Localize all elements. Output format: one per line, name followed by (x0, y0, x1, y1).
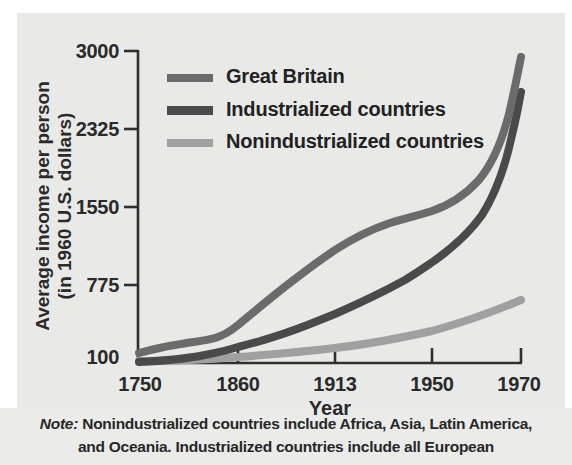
legend-swatch-industrialized-countries (167, 106, 213, 115)
chart-note-line-1-text: Nonindustrialized countries include Afri… (78, 415, 532, 432)
income-line-chart: 3000 2325 1550 775 100 1750 1860 1913 19… (0, 0, 572, 465)
y-tick-label-2325: 2325 (76, 118, 119, 140)
chart-note-prefix: Note: (40, 415, 78, 432)
chart-note-line-1: Note: Nonindustrialized countries includ… (0, 412, 572, 435)
legend-label-industrialized-countries: Industrialized countries (226, 98, 446, 120)
series-line-nonindustrialized-countries (139, 300, 521, 361)
legend-label-nonindustrialized-countries: Nonindustrialized countries (226, 130, 484, 152)
y-tick-label-100: 100 (87, 346, 120, 368)
y-tick-label-775: 775 (87, 274, 120, 296)
x-tick-label-1950: 1950 (410, 373, 453, 395)
y-axis-title-line-2: (in 1960 U.S. dollars) (54, 113, 75, 300)
figure-container: 3000 2325 1550 775 100 1750 1860 1913 19… (0, 0, 572, 465)
y-axis-title-line-1: Average income per person (32, 81, 53, 331)
chart-legend: Great Britain Industrialized countries N… (167, 65, 484, 152)
x-tick-label-1913: 1913 (313, 373, 356, 395)
x-tick-label-1970: 1970 (497, 373, 540, 395)
y-tick-label-3000: 3000 (76, 40, 119, 62)
chart-note-line-2: and Oceania. Industrialized countries in… (0, 435, 572, 458)
x-tick-label-1750: 1750 (118, 373, 161, 395)
y-tick-label-1550: 1550 (76, 196, 119, 218)
legend-swatch-great-britain (167, 74, 213, 82)
legend-label-great-britain: Great Britain (226, 65, 345, 87)
y-axis-ticks (124, 51, 138, 285)
chart-note: Note: Nonindustrialized countries includ… (0, 412, 572, 458)
legend-swatch-nonindustrialized-countries (167, 139, 213, 147)
x-tick-label-1860: 1860 (216, 373, 259, 395)
